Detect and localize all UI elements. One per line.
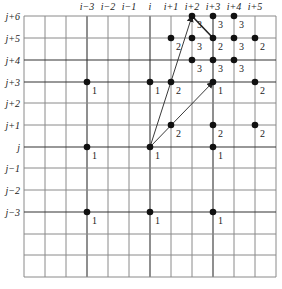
grid-point-label: 2	[176, 85, 181, 96]
grid-point-label: 2	[176, 41, 181, 52]
grid-point-dot	[252, 122, 259, 129]
grid-point-dot	[231, 57, 238, 64]
grid-point-dot	[147, 79, 154, 86]
column-label: i−3	[80, 1, 95, 12]
grid-point-label: 1	[155, 85, 160, 96]
column-label: i+2	[185, 1, 200, 12]
column-label: i+4	[227, 1, 242, 12]
row-label: j+4	[3, 55, 20, 66]
row-label: j−1	[3, 163, 20, 174]
row-label: j−3	[3, 207, 20, 218]
grid-point-label: 3	[239, 41, 244, 52]
grid-point-label: 2	[218, 41, 223, 52]
column-index-labels: i−3i−2i−1ii+1i+2i+3i+4i+5	[80, 1, 263, 12]
column-label: i+3	[206, 1, 221, 12]
row-label: j+2	[3, 98, 20, 109]
column-label: i−2	[101, 1, 116, 12]
grid-point-label: 3	[218, 63, 223, 74]
grid-point-dot	[210, 144, 217, 151]
grid-point-label: 3	[197, 19, 202, 30]
grid-point-dot	[147, 209, 154, 216]
grid-point-label: 2	[260, 41, 265, 52]
grid-point-label: 2	[218, 128, 223, 139]
grid-point-dot	[210, 209, 217, 216]
grid-point-label: 3	[239, 19, 244, 30]
grid-point-dot	[210, 79, 217, 86]
grid-diagram-canvas: i−3i−2i−1ii+1i+2i+3i+4i+5 j+6j+5j+4j+3j+…	[0, 0, 282, 289]
row-label: j	[15, 142, 20, 153]
grid-point-label: 1	[92, 215, 97, 226]
grid-point-dot	[84, 79, 91, 86]
grid-point-label: 3	[218, 19, 223, 30]
grid-point-label: 1	[218, 85, 223, 96]
grid-point-dot	[189, 35, 196, 42]
column-label: i+5	[248, 1, 263, 12]
row-label: j+6	[3, 11, 20, 22]
grid-point-dot	[252, 35, 259, 42]
row-index-labels: j+6j+5j+4j+3j+2j+1jj−1j−2j−3	[3, 11, 20, 218]
row-label: j−2	[3, 185, 20, 196]
grid-point-dot	[147, 144, 154, 151]
grid-point-dot	[210, 57, 217, 64]
grid-point-dot	[189, 57, 196, 64]
column-label: i	[149, 1, 152, 12]
grid-point-label: 1	[92, 150, 97, 161]
grid-point-dot	[231, 13, 238, 20]
column-label: i−1	[122, 1, 137, 12]
row-label: j+3	[3, 77, 20, 88]
grid-point-label: 1	[155, 215, 160, 226]
grid-point-label: 1	[92, 85, 97, 96]
grid-point-label: 1	[218, 215, 223, 226]
grid-point-dot	[84, 209, 91, 216]
grid-point-dot	[84, 144, 91, 151]
grid-point-dot	[210, 13, 217, 20]
row-label: j+5	[3, 33, 20, 44]
grid-point-dot	[210, 35, 217, 42]
grid-point-dot	[168, 79, 175, 86]
grid-point-label: 2	[260, 85, 265, 96]
grid-point-dot	[210, 122, 217, 129]
column-label: i+1	[164, 1, 179, 12]
row-label: j+1	[3, 120, 20, 131]
grid-point-dot	[168, 35, 175, 42]
dependency-segment	[192, 16, 213, 38]
grid-point-label: 3	[197, 41, 202, 52]
grid-point-label: 1	[155, 150, 160, 161]
grid-points: 3332323233311212222111111	[84, 13, 265, 226]
grid-point-label: 3	[197, 63, 202, 74]
grid-point-label: 1	[218, 150, 223, 161]
grid-point-label: 3	[239, 63, 244, 74]
stencil-grid-diagram: i−3i−2i−1ii+1i+2i+3i+4i+5 j+6j+5j+4j+3j+…	[0, 0, 282, 289]
grid-point-dot	[168, 122, 175, 129]
grid-point-label: 2	[260, 128, 265, 139]
grid-point-label: 2	[176, 128, 181, 139]
grid-point-dot	[231, 35, 238, 42]
grid-point-dot	[252, 79, 259, 86]
grid-point-dot	[189, 13, 196, 20]
